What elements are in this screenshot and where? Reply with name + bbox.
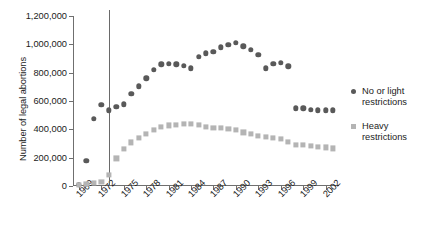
data-point: [99, 179, 104, 184]
data-point: [271, 135, 276, 140]
data-point: [203, 124, 208, 129]
y-axis-tick-label: 600,000: [33, 96, 67, 106]
data-point: [196, 122, 201, 127]
y-axis-tick-label: 1,000,000: [26, 39, 67, 49]
y-axis-tick: [69, 186, 73, 187]
plot-area: 0200,000400,000600,000800,0001,000,0001,…: [73, 16, 339, 186]
data-point: [308, 143, 313, 148]
data-point: [159, 124, 164, 129]
y-axis-tick-label: 200,000: [33, 153, 67, 163]
series-square: [73, 16, 339, 186]
data-point: [121, 146, 126, 151]
data-point: [114, 156, 119, 161]
data-point: [241, 130, 246, 135]
legend-circle-marker-icon: [351, 89, 356, 94]
data-point: [226, 126, 231, 131]
data-point: [129, 140, 134, 145]
y-axis-title: Number of legal abortions: [18, 24, 28, 194]
data-point: [84, 182, 89, 187]
data-point: [144, 131, 149, 136]
data-point: [166, 123, 171, 128]
y-axis-tick-label: 1,200,000: [26, 11, 67, 21]
legend-label: Heavy restrictions: [362, 121, 421, 142]
data-point: [174, 122, 179, 127]
data-point: [151, 127, 156, 132]
data-point: [278, 137, 283, 142]
legend-item-no-or-light-restrictions[interactable]: No or light restrictions: [351, 86, 421, 107]
data-point: [286, 139, 291, 144]
data-point: [301, 143, 306, 148]
data-point: [248, 131, 253, 136]
legend-item-heavy-restrictions[interactable]: Heavy restrictions: [351, 121, 421, 142]
data-point: [233, 127, 238, 132]
abortions-scatter-chart: Number of legal abortions 0200,000400,00…: [0, 0, 421, 232]
data-point: [315, 144, 320, 149]
data-point: [263, 134, 268, 139]
data-point: [218, 125, 223, 130]
data-point: [136, 135, 141, 140]
y-axis-tick-label: 800,000: [33, 68, 67, 78]
legend-label: No or light restrictions: [362, 86, 421, 107]
data-point: [91, 180, 96, 185]
y-axis-tick-label: 0: [62, 181, 67, 191]
data-point: [256, 133, 261, 138]
legend-square-marker-icon: [351, 124, 356, 129]
data-point: [293, 142, 298, 147]
data-point: [330, 146, 335, 151]
data-point: [181, 121, 186, 126]
chart-legend: No or light restrictions Heavy restricti…: [351, 86, 421, 156]
data-point: [76, 183, 81, 188]
data-point: [188, 121, 193, 126]
data-point: [323, 145, 328, 150]
data-point: [211, 125, 216, 130]
data-point: [106, 172, 111, 177]
y-axis-tick-label: 400,000: [33, 124, 67, 134]
